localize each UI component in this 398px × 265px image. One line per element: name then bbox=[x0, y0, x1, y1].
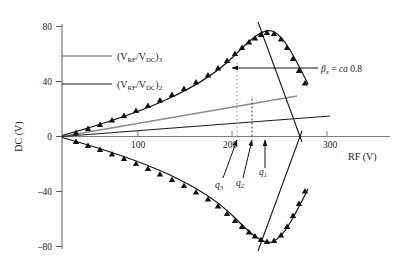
y-tick-label-minus40: –40 bbox=[37, 187, 53, 197]
q-marker-labels: q3 q2 q1 bbox=[215, 167, 267, 191]
x-axis-title: RF (V) bbox=[348, 151, 377, 163]
legend-label-1: (VRF/VDC)2 bbox=[117, 79, 163, 91]
legend-label-0: (VRF/VDC)3 bbox=[117, 51, 163, 63]
legend-entry-1[interactable]: (VRF/VDC)2 bbox=[62, 79, 163, 91]
y-tick-label-40: 40 bbox=[43, 77, 53, 87]
q2-arrow bbox=[243, 140, 252, 178]
q3-label: q3 bbox=[215, 180, 224, 191]
y-tick-label-minus80: –80 bbox=[37, 242, 53, 252]
q2-label: q2 bbox=[236, 178, 245, 189]
y-tick-label-80: 80 bbox=[43, 22, 53, 32]
scan-lines-group bbox=[62, 96, 330, 137]
beta-annotation-label: βx = ca 0.8 bbox=[320, 64, 362, 75]
legend-entry-0[interactable]: (VRF/VDC)3 bbox=[62, 51, 163, 63]
legend: (VRF/VDC)3 (VRF/VDC)2 bbox=[62, 51, 163, 91]
beta-annotation-group: βx = ca 0.8 bbox=[232, 64, 362, 75]
x-tick-label-300: 300 bbox=[323, 140, 338, 150]
vertical-guides bbox=[237, 62, 252, 137]
stability-boundary-lower bbox=[62, 138, 308, 243]
y-axis-ticks bbox=[56, 27, 62, 247]
scan-line-3 bbox=[62, 96, 297, 137]
q1-label: q1 bbox=[259, 167, 267, 178]
stability-boundary-upper bbox=[62, 31, 308, 136]
marker-series-lower bbox=[73, 139, 308, 244]
x-tick-label-100: 100 bbox=[131, 140, 146, 150]
marker-series-upper bbox=[73, 30, 308, 135]
y-tick-label-0: 0 bbox=[47, 132, 52, 142]
y-axis-title: DC (V) bbox=[13, 121, 25, 151]
figure-container: 80 40 0 –40 –80 100 200 300 DC (V) RF (V… bbox=[0, 0, 398, 265]
stability-diagram-plot: 80 40 0 –40 –80 100 200 300 DC (V) RF (V… bbox=[0, 0, 398, 265]
